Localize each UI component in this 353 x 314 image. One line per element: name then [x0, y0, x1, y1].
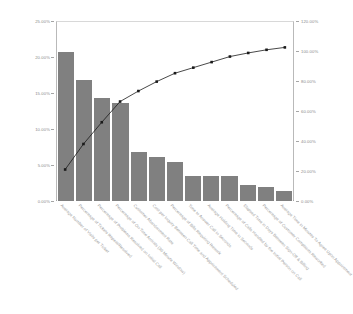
y-left-tick-label: 0.00%: [38, 199, 50, 204]
x-category-label: Cost per Inquiry Between Call Time and A…: [151, 203, 239, 291]
bar: [184, 175, 202, 201]
bar-slot: [148, 22, 166, 201]
y-left-tick-mark: [51, 21, 54, 22]
y-right-tick-mark: [296, 171, 299, 172]
y-left-tick-label: 5.00%: [38, 163, 50, 168]
y-left-tick-label: 15.00%: [35, 91, 50, 96]
y-right-tick-label: 100.00%: [301, 49, 318, 54]
y-right-tick-mark: [296, 81, 299, 82]
bar-slot: [275, 22, 293, 201]
x-category-label: Elapsed Time in Days Between Sign-Off & …: [243, 203, 311, 271]
y-left-tick-mark: [51, 57, 54, 58]
bar-slot: [57, 22, 75, 201]
bar: [239, 184, 257, 201]
y-axis-right: 0.00%20.00%40.00%60.00%80.00%100.00%120.…: [296, 21, 336, 201]
bar: [75, 79, 93, 201]
y-left-tick-label: 10.00%: [35, 127, 50, 132]
bar-slot: [239, 22, 257, 201]
y-right-tick-label: 0.00%: [301, 199, 313, 204]
bar-slot: [257, 22, 275, 201]
bar: [130, 151, 148, 201]
bar-slot: [166, 22, 184, 201]
bar-slot: [220, 22, 238, 201]
bar-slot: [75, 22, 93, 201]
bar: [93, 97, 111, 201]
y-right-tick-mark: [296, 21, 299, 22]
y-left-tick-label: 20.00%: [35, 55, 50, 60]
bar-slot: [184, 22, 202, 201]
bar-series: [57, 22, 293, 201]
bar: [275, 190, 293, 201]
bar: [111, 102, 129, 201]
bar-slot: [130, 22, 148, 201]
x-axis-category-labels: Average Number of Visits per TicketPerce…: [56, 203, 294, 314]
y-axis-left: 0.00%5.00%10.00%15.00%20.00%25.00%: [0, 21, 54, 201]
y-left-tick-mark: [51, 201, 54, 202]
y-left-tick-mark: [51, 93, 54, 94]
bar: [257, 186, 275, 201]
bar: [148, 156, 166, 201]
y-right-tick-mark: [296, 141, 299, 142]
y-right-tick-label: 80.00%: [301, 79, 316, 84]
y-right-tick-mark: [296, 111, 299, 112]
bar: [220, 175, 238, 201]
bar-slot: [93, 22, 111, 201]
y-right-tick-label: 120.00%: [301, 19, 318, 24]
y-left-tick-label: 25.00%: [35, 19, 50, 24]
y-right-tick-mark: [296, 51, 299, 52]
bar: [166, 161, 184, 201]
bar-slot: [202, 22, 220, 201]
y-right-tick-label: 60.00%: [301, 109, 316, 114]
y-right-tick-label: 40.00%: [301, 139, 316, 144]
y-left-tick-mark: [51, 165, 54, 166]
y-right-tick-mark: [296, 201, 299, 202]
bar-slot: [111, 22, 129, 201]
y-right-tick-label: 20.00%: [301, 169, 316, 174]
bar: [57, 51, 75, 201]
bar: [202, 175, 220, 201]
y-left-tick-mark: [51, 129, 54, 130]
